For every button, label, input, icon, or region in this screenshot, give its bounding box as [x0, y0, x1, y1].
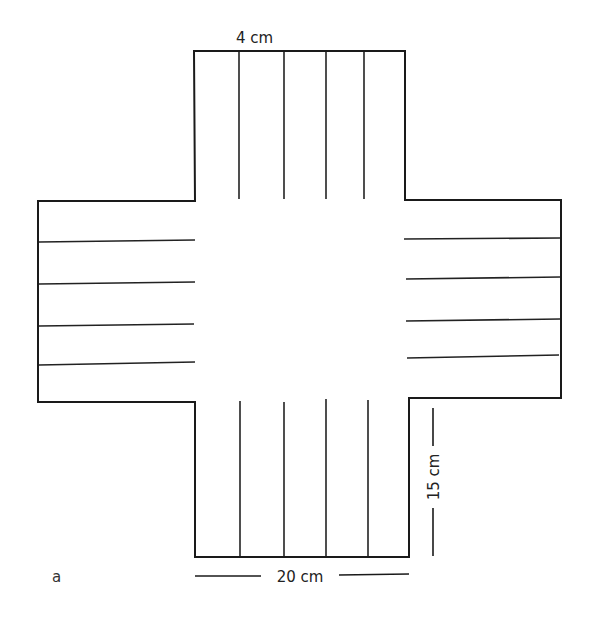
right-line-4 [407, 355, 559, 358]
panel-label: a [52, 568, 61, 586]
left-arm-lines [39, 240, 195, 365]
left-line-3 [39, 324, 194, 326]
right-line-1 [404, 238, 560, 239]
left-line-1 [39, 240, 195, 242]
bottom-arm-lines [240, 399, 368, 556]
width-dim-line-right [339, 574, 409, 575]
arm-length-label: 15 cm [425, 454, 443, 501]
arm-spacing-label: 4 cm [236, 29, 273, 47]
cross-diagram: 4 cm 20 cm 15 cm a [0, 0, 594, 624]
cross-outline [38, 51, 561, 557]
right-arm-lines [404, 238, 560, 358]
right-line-3 [406, 319, 560, 321]
arm-length-dimension: 15 cm [425, 408, 443, 556]
left-line-4 [39, 362, 195, 365]
top-arm-lines [239, 52, 364, 199]
width-label: 20 cm [277, 568, 324, 586]
right-line-2 [406, 277, 560, 279]
left-line-2 [39, 282, 195, 284]
width-dimension: 20 cm [195, 568, 409, 586]
